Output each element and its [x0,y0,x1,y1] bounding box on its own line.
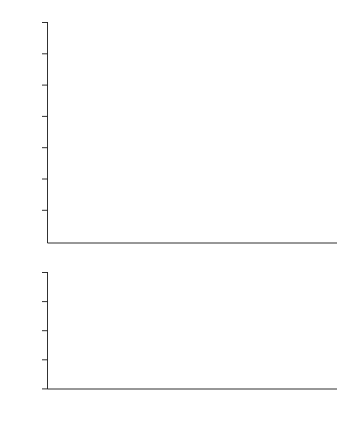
saving-rate-figure [0,0,361,427]
top-panel-y-ticks [42,23,48,211]
discrepancy-panel [42,272,337,389]
figure-root [0,0,361,427]
saving-rates-panel [42,22,337,243]
bottom-panel-y-ticks [42,273,48,389]
